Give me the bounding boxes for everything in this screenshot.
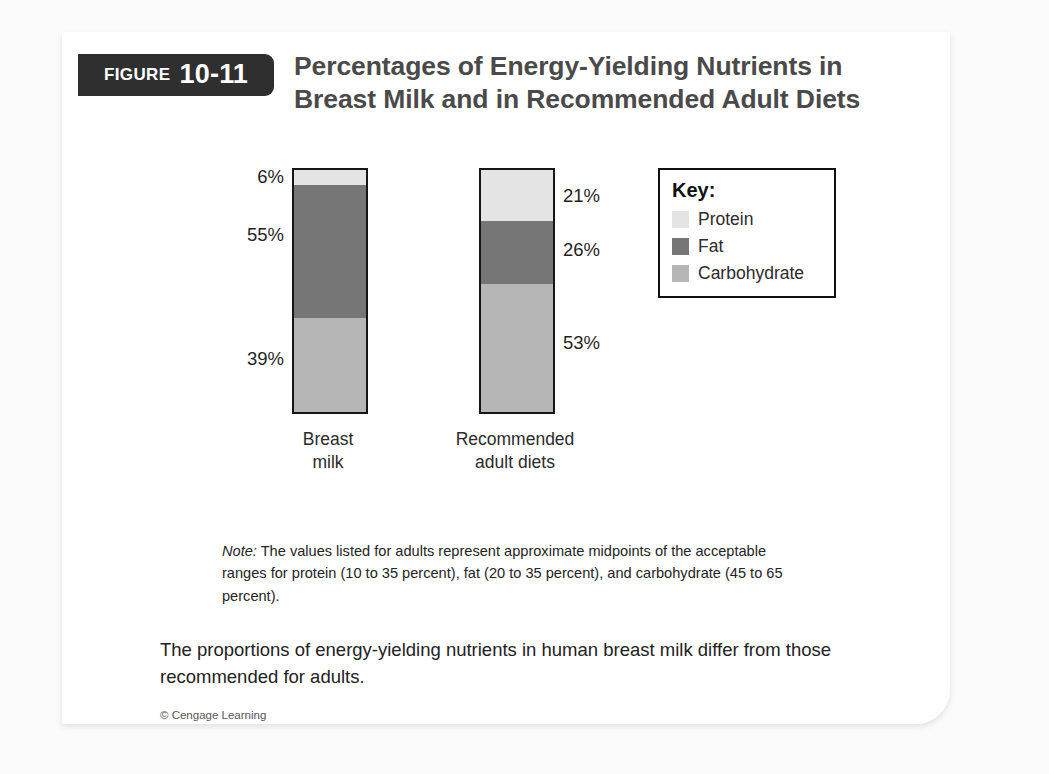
value-label-protein: 21%: [563, 185, 600, 207]
bar-caption-breast-milk: Breast milk: [224, 428, 432, 474]
figure-credit: © Cengage Learning: [160, 709, 266, 721]
bar-caption-line-2: milk: [224, 451, 432, 474]
figure-note: Note: The values listed for adults repre…: [222, 540, 804, 607]
value-label-protein: 6%: [257, 166, 284, 188]
value-label-fat: 26%: [563, 239, 600, 261]
legend-swatch-protein: [672, 211, 689, 228]
value-label-fat: 55%: [247, 224, 284, 246]
value-label-carbohydrate: 39%: [247, 348, 284, 370]
bar-segment-protein: [294, 170, 366, 185]
chart-legend: Key: Protein Fat Carbohydrate: [658, 168, 836, 298]
bar-caption-recommended-adult-diets: Recommended adult diets: [411, 428, 619, 474]
legend-label-protein: Protein: [698, 209, 753, 230]
figure-card: FIGURE 10-11 Percentages of Energy-Yield…: [62, 32, 950, 724]
bar-segment-protein: [481, 170, 553, 221]
bar-segment-fat: [481, 221, 553, 284]
figure-badge-word: FIGURE: [104, 65, 171, 85]
legend-swatch-carbohydrate: [672, 265, 689, 282]
bar-caption-line-2: adult diets: [411, 451, 619, 474]
bar-caption-line-1: Recommended: [411, 428, 619, 451]
bar-segment-fat: [294, 185, 366, 318]
legend-item-fat: Fat: [672, 236, 824, 257]
figure-title: Percentages of Energy-Yielding Nutrients…: [294, 50, 934, 117]
figure-title-line-1: Percentages of Energy-Yielding Nutrients…: [294, 50, 934, 83]
figure-caption: The proportions of energy-yielding nutri…: [160, 637, 920, 690]
legend-item-protein: Protein: [672, 209, 824, 230]
figure-title-line-2: Breast Milk and in Recommended Adult Die…: [294, 83, 934, 116]
figure-header: FIGURE 10-11 Percentages of Energy-Yield…: [62, 54, 950, 138]
figure-badge-number: 10-11: [180, 59, 249, 90]
figure-note-text: The values listed for adults represent a…: [222, 543, 783, 604]
chart-area: 6% 55% 39% Breast milk 21% 26% 53% Recom…: [62, 152, 950, 522]
legend-swatch-fat: [672, 238, 689, 255]
figure-number-badge: FIGURE 10-11: [78, 54, 274, 96]
value-label-carbohydrate: 53%: [563, 332, 600, 354]
legend-label-carbohydrate: Carbohydrate: [698, 263, 804, 284]
bar-segment-carbohydrate: [481, 284, 553, 412]
stacked-bar-recommended-adult-diets: [479, 168, 555, 414]
figure-note-label: Note:: [222, 543, 257, 559]
legend-label-fat: Fat: [698, 236, 723, 257]
legend-title: Key:: [672, 179, 824, 202]
stacked-bar-breast-milk: [292, 168, 368, 414]
bar-caption-line-1: Breast: [224, 428, 432, 451]
legend-item-carbohydrate: Carbohydrate: [672, 263, 824, 284]
bar-segment-carbohydrate: [294, 318, 366, 412]
